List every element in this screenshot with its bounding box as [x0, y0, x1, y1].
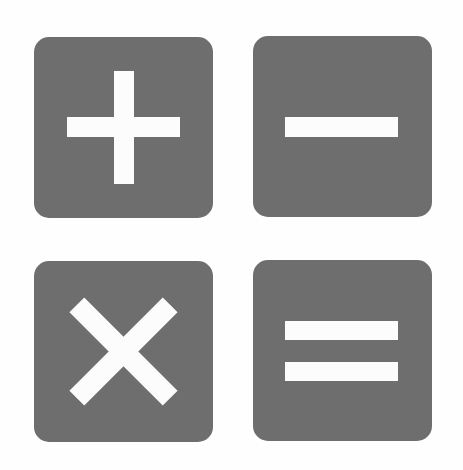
minus-icon: [253, 36, 432, 217]
plus-icon: [34, 37, 213, 218]
multiply-button[interactable]: ×: [34, 261, 213, 442]
add-button[interactable]: +: [34, 37, 213, 218]
equals-icon: [253, 260, 432, 441]
equals-button[interactable]: =: [253, 260, 432, 441]
multiply-icon: [34, 261, 213, 442]
subtract-button[interactable]: −: [253, 36, 432, 217]
